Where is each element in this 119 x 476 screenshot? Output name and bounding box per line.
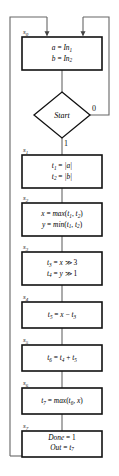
box-s7-line2: Out = t7 xyxy=(22,443,102,454)
box-s7-line1: Done = 1 xyxy=(22,433,102,443)
state-label-s2: s2 xyxy=(23,195,28,202)
box-text-s4: t5 = x − t3 xyxy=(22,310,102,321)
state-label-s1: s1 xyxy=(23,147,28,154)
decision-label-start: Start xyxy=(22,111,102,120)
state-label-s0: s0 xyxy=(23,29,28,36)
state-label-s3: s3 xyxy=(23,244,28,251)
box-s3-line1: t3 = x ≫ 3 xyxy=(22,258,102,269)
state-label-s6: s6 xyxy=(23,380,28,387)
box-text-s2: x = max(t1, t2) y = min(t1, t2) xyxy=(22,209,102,230)
box-s3-line2: t4 = y ≫ 1 xyxy=(22,269,102,280)
state-label-s4: s4 xyxy=(23,294,28,301)
box-text-s6: t7 = max(t6, x) xyxy=(22,396,102,407)
box-s5-line1: t6 = t4 + t5 xyxy=(22,353,102,364)
box-s1-line1: t1 = |a| xyxy=(22,161,102,172)
state-label-s7: s7 xyxy=(23,423,28,430)
box-s2-line1: x = max(t1, t2) xyxy=(22,209,102,220)
box-s4-line1: t5 = x − t3 xyxy=(22,310,102,321)
box-text-s1: t1 = |a| t2 = |b| xyxy=(22,161,102,182)
box-s0-line1: a = In1 xyxy=(22,43,102,54)
box-s6-line1: t7 = max(t6, x) xyxy=(22,396,102,407)
box-text-s7: Done = 1 Out = t7 xyxy=(22,433,102,453)
box-text-s3: t3 = x ≫ 3 t4 = y ≫ 1 xyxy=(22,258,102,279)
s0-incoming-arrows xyxy=(47,17,83,36)
box-text-s5: t6 = t4 + t5 xyxy=(22,353,102,364)
box-s0-line2: b = In2 xyxy=(22,54,102,65)
state-label-s5: s5 xyxy=(23,337,28,344)
box-text-s0: a = In1 b = In2 xyxy=(22,43,102,64)
branch-label-true: 1 xyxy=(64,139,68,148)
box-s1-line2: t2 = |b| xyxy=(22,172,102,183)
branch-label-false: 0 xyxy=(92,104,96,113)
box-s2-line2: y = min(t1, t2) xyxy=(22,220,102,231)
